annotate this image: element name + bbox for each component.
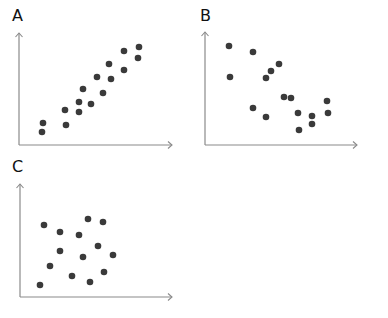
data-point — [263, 114, 270, 121]
data-point — [80, 254, 87, 261]
data-point — [80, 86, 87, 93]
data-point — [47, 263, 54, 270]
data-point — [41, 222, 48, 229]
data-point — [227, 74, 234, 81]
data-point — [62, 107, 69, 114]
data-point — [295, 110, 302, 117]
data-point — [276, 61, 283, 68]
data-point — [63, 122, 70, 129]
data-point — [135, 55, 142, 62]
data-point — [296, 127, 303, 134]
data-point — [288, 95, 295, 102]
data-point — [76, 232, 83, 239]
data-point — [309, 121, 316, 128]
data-point — [226, 43, 233, 50]
data-point — [263, 75, 270, 82]
data-point — [101, 269, 108, 276]
data-point — [325, 110, 332, 117]
data-point — [87, 279, 94, 286]
data-point — [94, 74, 101, 81]
data-point — [95, 243, 102, 250]
data-point — [121, 67, 128, 74]
data-point — [40, 120, 47, 127]
data-point — [85, 216, 92, 223]
data-point — [309, 113, 316, 120]
data-point — [57, 248, 64, 255]
data-point — [250, 105, 257, 112]
data-point — [281, 94, 288, 101]
data-point — [37, 282, 44, 289]
data-point — [324, 98, 331, 105]
data-point — [100, 90, 107, 97]
data-point — [106, 61, 113, 68]
data-point — [250, 49, 257, 56]
scatter-plot-c — [17, 184, 173, 301]
data-point — [121, 48, 128, 55]
scatter-plot-b — [202, 32, 358, 149]
data-point — [136, 44, 143, 51]
data-point — [76, 99, 83, 106]
scatter-plots — [0, 0, 388, 318]
scatter-plot-a — [16, 33, 173, 149]
data-point — [108, 76, 115, 83]
data-point — [69, 273, 76, 280]
data-point — [110, 252, 117, 259]
data-point — [76, 109, 83, 116]
data-point — [57, 229, 64, 236]
data-point — [88, 101, 95, 108]
data-point — [268, 68, 275, 75]
data-point — [39, 129, 46, 136]
data-point — [100, 219, 107, 226]
